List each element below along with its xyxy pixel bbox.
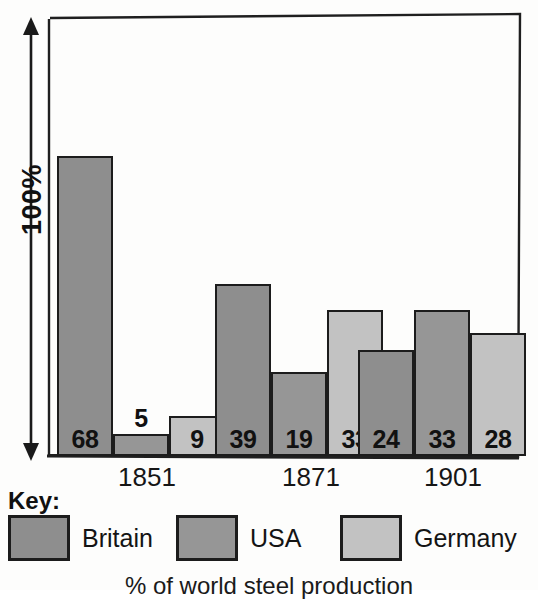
x-label-1851: 1851 — [118, 462, 176, 493]
bar-value-label: 28 — [472, 427, 524, 452]
legend-item-usa: USA — [176, 514, 301, 562]
legend-swatch-germany — [340, 515, 402, 561]
bar-1851-britain: 68 — [57, 156, 113, 456]
legend-swatch-britain — [8, 515, 70, 561]
bar-value-label: 33 — [416, 427, 468, 452]
bar-value-label: 5 — [115, 406, 167, 431]
bar-1901-usa: 33 — [414, 310, 470, 456]
bar-1901-britain: 24 — [358, 350, 414, 456]
legend-label-britain: Britain — [82, 524, 153, 553]
bar-1871-usa: 19 — [271, 372, 327, 456]
bar-1851-usa: 5 — [113, 434, 169, 456]
legend-label-germany: Germany — [414, 524, 517, 553]
bar-group-container: 6859391933243328 — [0, 0, 538, 480]
legend-swatch-usa — [176, 515, 238, 561]
bar-value-label: 24 — [360, 427, 412, 452]
x-label-1901: 1901 — [424, 462, 482, 493]
bar-1901-germany: 28 — [470, 333, 526, 456]
chart-caption: % of world steel production — [0, 572, 538, 600]
legend-item-britain: Britain — [8, 514, 153, 562]
bar-value-label: 19 — [273, 427, 325, 452]
legend-title: Key: — [8, 487, 60, 515]
legend-item-germany: Germany — [340, 514, 517, 562]
bar-value-label: 68 — [59, 427, 111, 452]
bar-value-label: 39 — [217, 427, 269, 452]
x-label-1871: 1871 — [282, 462, 340, 493]
bar-1871-britain: 39 — [215, 284, 271, 456]
legend-label-usa: USA — [250, 524, 301, 553]
